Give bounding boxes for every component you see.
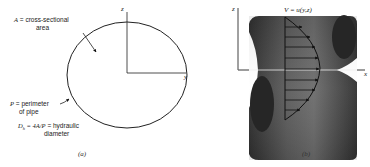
area-label: A = cross-sectional: [14, 16, 69, 24]
perimeter-pointer: [60, 99, 69, 104]
area-label-line2: area: [36, 24, 49, 32]
perimeter-text: = perimeter: [14, 100, 49, 107]
caption-b: (b): [302, 150, 310, 158]
y-axis-label-a: y: [184, 73, 187, 81]
hydraulic-text: = hydraulic: [46, 122, 79, 129]
diagram-canvas: A = cross-sectional area P = perimeter o…: [0, 0, 370, 167]
perimeter-label-line2: of pipe: [19, 108, 39, 116]
z-axis-label-a: z: [121, 5, 124, 13]
perimeter-label: P = perimeter: [10, 100, 49, 108]
z-axis-label-b: z: [232, 5, 235, 13]
area-pointer: [83, 33, 96, 52]
caption-a: (a): [78, 150, 86, 158]
velocity-label: V = u(y,z): [284, 6, 312, 14]
diagram-svg: [0, 0, 370, 167]
hydraulic-equation: = 4A/P: [25, 122, 46, 129]
hydraulic-label-line2: diameter: [44, 130, 69, 138]
panel-b: [238, 8, 365, 160]
x-axis-label-b: x: [364, 70, 367, 78]
panel-a: [60, 12, 187, 128]
pipe-end-left: [250, 76, 274, 132]
area-text: = cross-sectional: [18, 16, 69, 23]
pipe-end-right: [332, 15, 356, 59]
